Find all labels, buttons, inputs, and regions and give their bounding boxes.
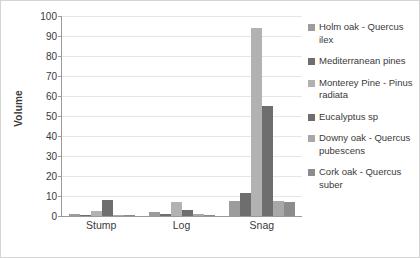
legend-item[interactable]: Downy oak - Quercus pubescens xyxy=(308,132,418,157)
bar-group xyxy=(222,16,302,216)
legend-swatch-icon xyxy=(308,24,315,31)
legend-swatch-icon xyxy=(308,169,315,176)
bar[interactable] xyxy=(240,193,251,216)
bar[interactable] xyxy=(229,201,240,216)
legend-label: Cork oak - Quercus suber xyxy=(319,166,418,191)
legend-item[interactable]: Mediterranean pines xyxy=(308,55,418,68)
bar[interactable] xyxy=(251,28,262,216)
y-axis-tick-label: 10 xyxy=(46,191,57,202)
bar-group xyxy=(142,16,222,216)
y-axis-tick-label: 0 xyxy=(51,211,57,222)
plot-area xyxy=(61,16,302,217)
bar-group xyxy=(62,16,142,216)
x-axis-tick-label: Stump xyxy=(61,219,141,231)
y-axis-tick-label: 60 xyxy=(46,91,57,102)
legend-item[interactable]: Holm oak - Quercus ilex xyxy=(308,21,418,46)
y-axis-tick-label: 20 xyxy=(46,171,57,182)
x-axis-tick-label: Snag xyxy=(222,219,302,231)
legend-label: Eucalyptus sp xyxy=(319,111,378,124)
legend-label: Mediterranean pines xyxy=(319,55,406,68)
bar[interactable] xyxy=(284,202,295,216)
y-axis-tick-labels: 0102030405060708090100 xyxy=(27,16,57,216)
legend-item[interactable]: Eucalyptus sp xyxy=(308,111,418,124)
bar[interactable] xyxy=(171,202,182,216)
plot-wrapper: Volume 0102030405060708090100 StumpLogSn… xyxy=(1,1,306,258)
bar[interactable] xyxy=(160,214,171,216)
legend-item[interactable]: Cork oak - Quercus suber xyxy=(308,166,418,191)
y-axis-tick-label: 50 xyxy=(46,111,57,122)
y-axis-tick-label: 80 xyxy=(46,51,57,62)
bar[interactable] xyxy=(204,215,215,216)
bar[interactable] xyxy=(149,212,160,216)
y-axis-tick-label: 40 xyxy=(46,131,57,142)
bar[interactable] xyxy=(102,200,113,216)
legend-swatch-icon xyxy=(308,80,315,87)
bar[interactable] xyxy=(124,215,135,216)
y-axis-title-text: Volume xyxy=(13,90,24,127)
bar[interactable] xyxy=(69,214,80,216)
legend-label: Holm oak - Quercus ilex xyxy=(319,21,418,46)
x-axis-tick-label: Log xyxy=(141,219,221,231)
legend-label: Monterey Pine - Pinus radiata xyxy=(319,77,418,102)
bar[interactable] xyxy=(273,201,284,216)
y-axis-tick-label: 30 xyxy=(46,151,57,162)
legend-swatch-icon xyxy=(308,114,315,121)
y-axis-tick-label: 100 xyxy=(40,11,57,22)
chart-legend: Holm oak - Quercus ilexMediterranean pin… xyxy=(308,21,418,200)
x-axis-tick-labels: StumpLogSnag xyxy=(61,219,302,231)
legend-label: Downy oak - Quercus pubescens xyxy=(319,132,418,157)
bar[interactable] xyxy=(262,106,273,216)
bar[interactable] xyxy=(91,211,102,216)
bar-groups xyxy=(62,16,302,216)
y-axis-tick-label: 90 xyxy=(46,31,57,42)
bar[interactable] xyxy=(80,215,91,216)
y-axis-tickmark xyxy=(58,216,62,217)
legend-swatch-icon xyxy=(308,135,315,142)
y-axis-title: Volume xyxy=(9,1,27,215)
chart-container: Volume 0102030405060708090100 StumpLogSn… xyxy=(0,0,420,258)
legend-swatch-icon xyxy=(308,58,315,65)
bar[interactable] xyxy=(182,210,193,216)
bar[interactable] xyxy=(193,214,204,216)
y-axis-tick-label: 70 xyxy=(46,71,57,82)
legend-item[interactable]: Monterey Pine - Pinus radiata xyxy=(308,77,418,102)
bar[interactable] xyxy=(113,215,124,216)
